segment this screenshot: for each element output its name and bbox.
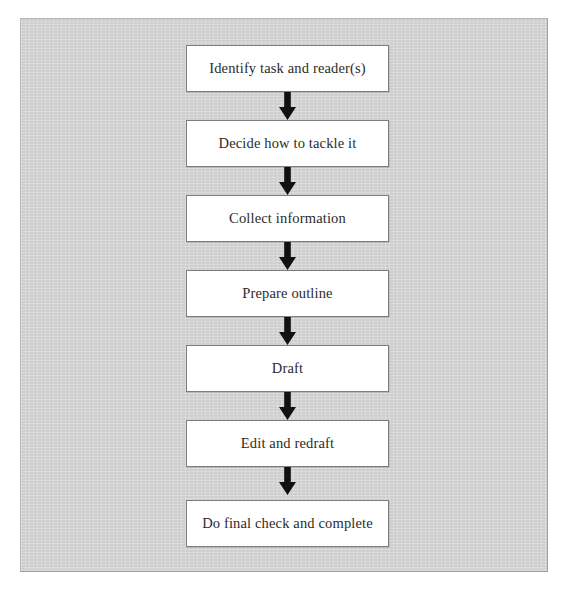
node-box[interactable]: Do final check and complete: [186, 500, 389, 547]
node-label: Collect information: [229, 211, 346, 226]
flow-node-edit[interactable]: Edit and redraft: [186, 420, 389, 467]
flow-node-outline[interactable]: Prepare outline: [186, 270, 389, 317]
node-label: Draft: [272, 361, 303, 376]
node-box[interactable]: Identify task and reader(s): [186, 45, 389, 92]
node-label: Prepare outline: [242, 286, 332, 301]
down-arrow-icon: [279, 92, 296, 120]
down-arrow-icon: [279, 167, 296, 195]
flow-node-finalcheck[interactable]: Do final check and complete: [186, 500, 389, 547]
node-box[interactable]: Draft: [186, 345, 389, 392]
node-label: Decide how to tackle it: [219, 136, 357, 151]
down-arrow-icon: [279, 392, 296, 420]
node-label: Edit and redraft: [241, 436, 334, 451]
node-label: Identify task and reader(s): [209, 61, 366, 76]
flowchart-flow: Identify task and reader(s) Decide how t…: [186, 45, 389, 548]
flow-node-decide[interactable]: Decide how to tackle it: [186, 120, 389, 167]
node-box[interactable]: Decide how to tackle it: [186, 120, 389, 167]
node-box[interactable]: Prepare outline: [186, 270, 389, 317]
flow-node-collect[interactable]: Collect information: [186, 195, 389, 242]
node-box[interactable]: Collect information: [186, 195, 389, 242]
figure-canvas: Identify task and reader(s) Decide how t…: [0, 0, 576, 592]
flow-node-identify[interactable]: Identify task and reader(s): [186, 45, 389, 92]
down-arrow-icon: [279, 317, 296, 345]
down-arrow-icon: [279, 242, 296, 270]
flow-node-draft[interactable]: Draft: [186, 345, 389, 392]
node-label: Do final check and complete: [202, 516, 373, 531]
down-arrow-icon: [279, 467, 296, 495]
node-box[interactable]: Edit and redraft: [186, 420, 389, 467]
